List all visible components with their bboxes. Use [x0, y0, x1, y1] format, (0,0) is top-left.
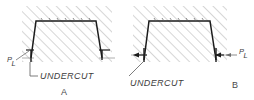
- figure-b: P L UNDERCUT B: [127, 0, 254, 100]
- figure-a: P L UNDERCUT A: [0, 0, 127, 100]
- undercut-label-a: UNDERCUT: [40, 71, 95, 81]
- parting-line-label-l-b: L: [244, 51, 248, 60]
- undercut-leader-b: [129, 62, 143, 76]
- undercut-label-b: UNDERCUT: [130, 78, 185, 88]
- parting-line-leader-b: [226, 53, 237, 57]
- undercut-leader-a: [30, 62, 38, 76]
- technical-drawing-figure: P L UNDERCUT A: [0, 0, 254, 100]
- figure-caption-b: B: [232, 80, 238, 90]
- figure-caption-a: A: [61, 87, 67, 97]
- parting-line-label-l-a: L: [12, 59, 16, 68]
